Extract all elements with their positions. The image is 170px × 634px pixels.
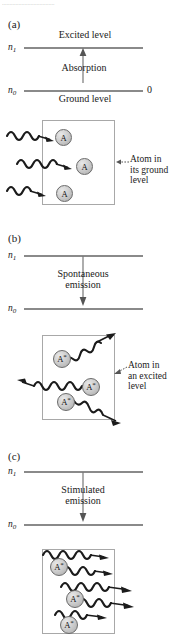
n0-sub-b: 0 <box>13 307 17 315</box>
level-label-n1-a: n1 <box>8 42 16 54</box>
level-label-n0-c: n0 <box>8 519 16 531</box>
process-label-b: Spontaneous emission <box>38 268 128 290</box>
n0-sub: 0 <box>13 89 17 97</box>
n1-sub: 1 <box>13 46 17 54</box>
process-label-b-line2: emission <box>38 279 128 290</box>
process-label-b-line1: Spontaneous <box>38 268 128 279</box>
level-label-n1-c: n1 <box>8 466 16 478</box>
process-label-c-line2: emission <box>38 495 128 506</box>
process-label-c: Stimulated emission <box>38 484 128 506</box>
panel-label-c: (c) <box>8 450 20 462</box>
atom-excited-2-b: A <box>82 378 100 396</box>
photon-incoming-3-a <box>6 182 58 200</box>
level-label-n0-b: n0 <box>8 303 16 315</box>
n1-sub-b: 1 <box>13 254 17 262</box>
n0-sub-c: 0 <box>13 523 17 531</box>
annotation-a: Atom in its ground level <box>130 154 170 186</box>
panel-label-a: (a) <box>8 18 20 30</box>
annotation-a-line2: its ground <box>130 165 170 176</box>
photon-stimulated-1-c <box>62 562 120 578</box>
level-label-n1-b: n1 <box>8 250 16 262</box>
level-label-n0-a: n0 <box>8 85 16 97</box>
excited-level-title: Excited level <box>40 29 130 40</box>
photon-emitted-3-b <box>72 397 130 427</box>
process-label-c-line1: Stimulated <box>38 484 128 495</box>
atom-excited-1-c: A <box>50 558 68 576</box>
atom-excited-1-b: A <box>53 350 71 368</box>
n1-sub-c: 1 <box>13 470 17 478</box>
energy-level-line-n0-c <box>24 524 143 526</box>
energy-level-line-n0-a <box>24 90 143 92</box>
atom-ground-2-a: A <box>76 158 93 175</box>
annotation-b-line1: Atom in <box>128 360 170 371</box>
annotation-b-line2: an excited <box>128 371 170 382</box>
annotation-a-line1: Atom in <box>130 154 170 165</box>
process-label-a: Absorption <box>39 62 129 73</box>
photon-emitted-1-b <box>63 332 121 364</box>
panel-label-b: (b) <box>8 232 21 244</box>
annotation-b: Atom in an excited level <box>128 360 170 392</box>
annotation-leader-a <box>116 158 130 166</box>
ground-level-title: Ground level <box>40 93 130 104</box>
energy-level-line-n0-b <box>24 308 143 310</box>
annotation-a-line3: level <box>130 175 170 186</box>
atom-excited-3-b: A <box>57 393 75 411</box>
zero-energy-label: 0 <box>147 84 152 95</box>
atom-ground-1-a: A <box>55 129 72 146</box>
photon-emitted-2-b <box>8 378 84 396</box>
annotation-leader-b <box>112 364 128 376</box>
photon-incoming-1-a <box>6 126 58 144</box>
cut-off-header-text: ................................... <box>2 0 166 6</box>
atom-excited-3-c: A <box>60 616 78 634</box>
photon-incoming-2-a <box>16 155 78 173</box>
atom-ground-3-a: A <box>56 185 73 202</box>
annotation-b-line3: level <box>128 381 170 392</box>
